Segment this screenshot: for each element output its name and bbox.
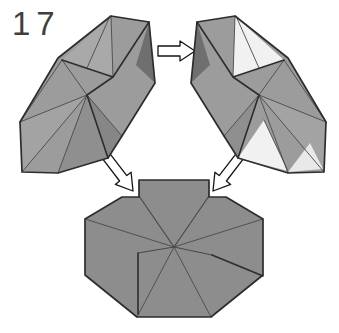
unit-after [191, 16, 326, 173]
origami-diagram-page: { "step_label": "17", "colors": { "backg… [0, 0, 339, 333]
assembled-octagon [85, 180, 263, 317]
transform-arrow-icon [158, 41, 195, 61]
unit-before [20, 16, 155, 173]
diagram-canvas [0, 0, 339, 333]
